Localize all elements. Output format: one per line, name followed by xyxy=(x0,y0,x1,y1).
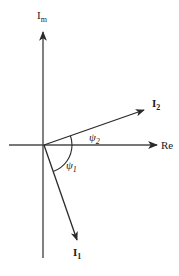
angle-psi2-arc xyxy=(70,136,72,145)
vector-i2-label: I2 xyxy=(152,97,160,112)
imaginary-axis-label: Im xyxy=(37,9,48,24)
vector-i1-label: I1 xyxy=(73,246,81,261)
phasor-diagram: Im Re I2 I1 ψ2 ψ1 xyxy=(0,0,179,276)
angle-psi1-label: ψ1 xyxy=(66,159,77,174)
real-axis-label: Re xyxy=(161,139,173,151)
angle-psi2-label: ψ2 xyxy=(89,131,100,146)
